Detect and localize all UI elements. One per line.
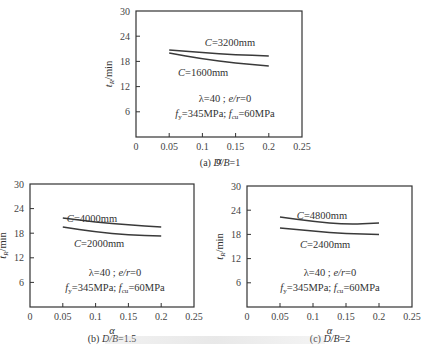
chart-panel-c: 00.050.10.150.20.25612182430αtR/minC=480… (214, 181, 421, 346)
x-tick-label: 0.2 (373, 311, 386, 322)
y-tick-label: 12 (231, 253, 241, 264)
series-label-lower: C=2000mm (74, 238, 124, 249)
x-tick-label: 0 (28, 311, 33, 322)
series-line-lower (63, 227, 161, 236)
y-tick-label: 18 (231, 229, 241, 240)
x-tick-label: 0.1 (196, 141, 209, 152)
parameter-annotation-2: fy=345MPa; fcu=60MPa (280, 282, 380, 295)
chart-panel-a: 00.050.10.150.20.25612182430αtR/minC=320… (103, 6, 311, 170)
series-line-lower (280, 228, 379, 234)
figure: 00.050.10.150.20.25612182430αtR/minC=320… (0, 0, 421, 350)
y-tick-label: 6 (19, 277, 24, 288)
parameter-annotation-1: λ=40 ; e/r=0 (89, 267, 142, 278)
y-tick-label: 12 (120, 81, 130, 92)
y-tick-label: 18 (120, 56, 130, 67)
x-tick-label: 0.15 (120, 311, 138, 322)
series-label-lower: C=2400mm (300, 239, 350, 250)
y-tick-label: 6 (125, 106, 130, 117)
series-label-upper: C=4000mm (67, 213, 117, 224)
faded-figure-caption (105, 336, 325, 344)
parameter-annotation-2: fy=345MPa; fcu=60MPa (175, 108, 275, 121)
series-label-lower: C=1600mm (178, 67, 228, 78)
parameter-annotation-1: λ=40 ; e/r=0 (199, 93, 252, 104)
y-tick-label: 30 (120, 6, 130, 17)
x-tick-label: 0.1 (89, 311, 102, 322)
x-tick-label: 0.25 (293, 141, 311, 152)
y-tick-label: 24 (120, 31, 130, 42)
x-tick-label: 0.1 (307, 311, 320, 322)
x-tick-label: 0.05 (160, 141, 178, 152)
y-axis-label: tR/min (0, 232, 10, 259)
x-tick-label: 0 (245, 311, 250, 322)
x-tick-label: 0.2 (155, 311, 168, 322)
y-axis-label: tR/min (214, 233, 227, 260)
chart-panel-b: 00.050.10.150.20.25612182430αtR/minC=400… (0, 179, 203, 346)
y-tick-label: 30 (14, 179, 24, 190)
x-tick-label: 0.05 (271, 311, 289, 322)
x-tick-label: 0.15 (227, 141, 245, 152)
series-label-upper: C=4800mm (297, 210, 347, 221)
x-tick-label: 0.05 (54, 311, 72, 322)
x-tick-label: 0.25 (185, 311, 203, 322)
x-tick-label: 0.25 (403, 311, 421, 322)
y-tick-label: 12 (14, 252, 24, 263)
parameter-annotation-2: fy=345MPa; fcu=60MPa (65, 282, 165, 295)
y-tick-label: 18 (14, 228, 24, 239)
y-tick-label: 24 (231, 205, 241, 216)
y-tick-label: 6 (236, 277, 241, 288)
x-tick-label: 0 (134, 141, 139, 152)
y-tick-label: 24 (14, 203, 24, 214)
parameter-annotation-1: λ=40 ; e/r=0 (304, 267, 357, 278)
panel-caption: (a) D/B=1 (200, 157, 240, 169)
y-axis-label: tR/min (103, 60, 116, 87)
x-tick-label: 0.15 (337, 311, 355, 322)
y-tick-label: 30 (231, 181, 241, 192)
x-tick-label: 0.2 (263, 141, 276, 152)
series-label-upper: C=3200mm (205, 37, 255, 48)
